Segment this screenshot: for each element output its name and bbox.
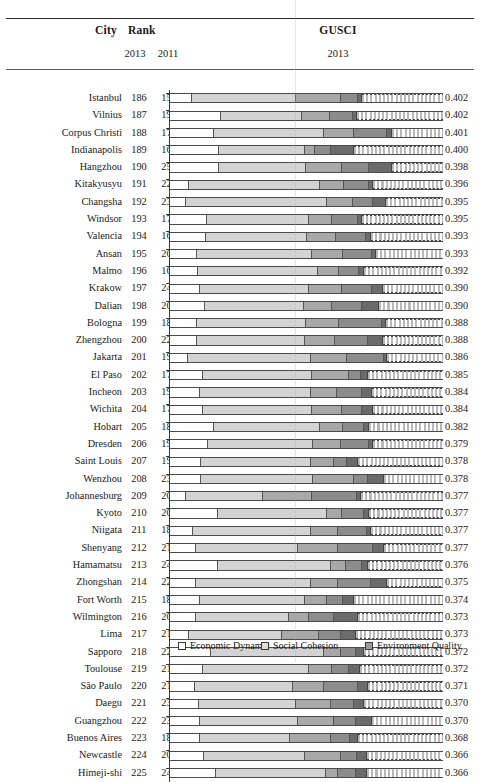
row-rank-2013: 201: [126, 351, 152, 362]
row-gusci-value: 0.400: [445, 144, 479, 155]
row-rank-2013: 210: [126, 507, 152, 518]
bar-segment-social-cohesion: [203, 665, 309, 673]
row-city-label: Wenzhou: [0, 473, 122, 484]
stacked-bar: [170, 457, 443, 467]
bar-segment-social-cohesion: [199, 700, 296, 708]
row-city-label: Lima: [0, 628, 122, 639]
bar-segment-segment-4: [331, 734, 350, 742]
bar-segment-remainder: [368, 561, 443, 569]
bar-segment-remainder: [384, 475, 443, 483]
bar-segment-segment-5: [350, 734, 358, 742]
column-subheader-gusci-2013: 2013: [296, 48, 380, 59]
bar-segment-social-cohesion: [200, 717, 298, 725]
row-gusci-value: 0.388: [445, 334, 479, 345]
stacked-bar: [170, 145, 443, 155]
bar-segment-segment-5: [343, 596, 354, 604]
bar-segment-segment-4: [338, 527, 367, 535]
bar-segment-remainder: [361, 492, 443, 500]
bar-segment-segment-4: [315, 146, 331, 154]
chart-row: Guangzhou2222370.370: [0, 713, 480, 730]
row-rank-2013: 199: [126, 317, 152, 328]
row-city-label: Fort Worth: [0, 594, 122, 605]
row-gusci-value: 0.366: [445, 767, 479, 778]
row-gusci-value: 0.378: [445, 473, 479, 484]
bar-segment-economic-dynamic: [170, 215, 207, 223]
row-city-label: Zhongshan: [0, 576, 122, 587]
bar-segment-economic-dynamic: [170, 319, 197, 327]
row-city-label: Krakow: [0, 282, 122, 293]
bar-segment-remainder: [367, 752, 443, 760]
chart-row: Fort Worth2151870.374: [0, 592, 480, 609]
bar-segment-social-cohesion: [214, 129, 325, 137]
bar-segment-segment-4: [339, 319, 381, 327]
column-subheader-rank-2011: 2011: [155, 48, 181, 59]
bar-segment-remainder: [364, 700, 443, 708]
bar-segment-economic-dynamic: [170, 509, 218, 517]
stacked-bar: [170, 301, 443, 311]
stacked-bar: [170, 595, 443, 605]
chart-row: Jakarta2011960.386: [0, 349, 480, 366]
row-gusci-value: 0.370: [445, 715, 479, 726]
stacked-bar: [170, 335, 443, 345]
row-rank-2013: 205: [126, 421, 152, 432]
bar-segment-economic-dynamic: [170, 285, 200, 293]
bar-segment-segment-5: [358, 682, 368, 690]
bar-segment-economic-dynamic: [170, 631, 189, 639]
row-gusci-value: 0.379: [445, 438, 479, 449]
bar-segment-segment-5: [362, 388, 372, 396]
bar-segment-segment-4: [347, 354, 384, 362]
row-city-label: Hangzhou: [0, 161, 122, 172]
bar-segment-segment-4: [341, 440, 370, 448]
row-rank-2013: 225: [126, 767, 152, 778]
bar-segment-environment-quality: [305, 146, 315, 154]
bar-segment-social-cohesion: [219, 163, 306, 171]
bar-segment-remainder: [356, 631, 443, 639]
chart-row: Hangzhou1902510.398: [0, 159, 480, 176]
bar-segment-remainder: [358, 734, 443, 742]
row-gusci-value: 0.385: [445, 369, 479, 380]
bar-segment-social-cohesion: [203, 371, 312, 379]
bar-segment-economic-dynamic: [170, 336, 197, 344]
bar-segment-segment-5: [362, 302, 378, 310]
bar-segment-segment-4: [324, 682, 358, 690]
row-rank-2013: 188: [126, 127, 152, 138]
row-city-label: Newcastle: [0, 749, 122, 760]
row-rank-2013: 197: [126, 282, 152, 293]
bar-segment-economic-dynamic: [170, 250, 197, 258]
bar-segment-environment-quality: [311, 527, 338, 535]
bar-segment-social-cohesion: [208, 440, 313, 448]
bar-segment-economic-dynamic: [170, 233, 206, 241]
bar-segment-remainder: [373, 181, 443, 189]
stacked-bar: [170, 422, 443, 432]
bar-segment-economic-dynamic: [170, 406, 203, 414]
bar-segment-environment-quality: [290, 734, 331, 742]
bar-segment-environment-quality: [305, 596, 327, 604]
bar-segment-environment-quality: [289, 613, 309, 621]
row-rank-2013: 214: [126, 576, 152, 587]
stacked-bar: [170, 768, 443, 778]
row-gusci-value: 0.376: [445, 559, 479, 570]
chart-row: Dalian1982070.390: [0, 298, 480, 315]
bar-segment-social-cohesion: [186, 198, 327, 206]
bar-segment-social-cohesion: [189, 631, 282, 639]
bar-segment-segment-4: [309, 613, 334, 621]
bar-segment-remainder: [362, 215, 443, 223]
bar-segment-remainder: [379, 302, 443, 310]
row-gusci-value: 0.395: [445, 196, 479, 207]
chart-row: Dresden2061940.379: [0, 436, 480, 453]
chart-row: Corpus Christi1881730.401: [0, 125, 480, 142]
bar-segment-segment-4: [332, 665, 348, 673]
row-gusci-value: 0.371: [445, 680, 479, 691]
stacked-bar: [170, 474, 443, 484]
header-rule-top: [6, 18, 474, 19]
bar-segment-remainder: [354, 146, 443, 154]
row-city-label: Toulouse: [0, 663, 122, 674]
row-gusci-value: 0.378: [445, 455, 479, 466]
row-city-label: Ansan: [0, 248, 122, 259]
bar-segment-environment-quality: [313, 475, 354, 483]
bar-segment-segment-5: [356, 717, 372, 725]
row-rank-2013: 217: [126, 628, 152, 639]
bar-segment-economic-dynamic: [170, 129, 214, 137]
bar-segment-social-cohesion: [188, 354, 311, 362]
bar-segment-social-cohesion: [203, 406, 312, 414]
